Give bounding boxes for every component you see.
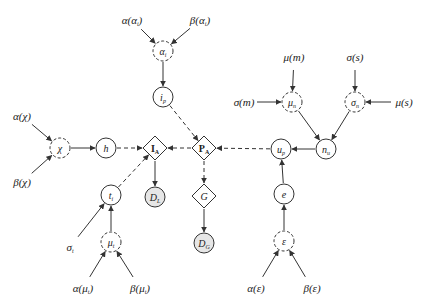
G-label: G	[200, 191, 207, 202]
alpha_chi-label: α(χ)	[13, 110, 31, 123]
node-h: h	[96, 138, 116, 158]
node-u_p: up	[271, 139, 291, 159]
edge-t_i-to-I_A	[119, 155, 149, 187]
epsilon-label: ε	[282, 236, 286, 247]
edge-u_p-to-P_A	[217, 148, 270, 149]
node-alpha_chi: α(χ)	[13, 110, 31, 123]
edge-alpha_eps-to-epsilon	[263, 250, 279, 276]
node-epsilon: ε	[274, 231, 294, 251]
alpha_eps-label: α(ε)	[247, 282, 265, 295]
beta_eps-label: β(ε)	[302, 282, 320, 295]
node-beta_alpha_i: β(αi)	[189, 14, 211, 28]
node-P_A: PA	[192, 136, 216, 160]
h-label: h	[104, 143, 109, 154]
chi-label: χ	[57, 143, 63, 154]
diagram-canvas: α(αi)β(αi)αiipα(χ)β(χ)χhIAPAupnuμ(m)σ(s)…	[0, 0, 422, 306]
node-e: e	[274, 184, 294, 204]
beta_chi-label: β(χ)	[12, 176, 31, 189]
sigma_t-label: σt	[66, 241, 73, 255]
node-alpha_mu_t: α(μt)	[73, 282, 94, 296]
node-alpha_eps: α(ε)	[247, 282, 265, 295]
mu_s-label: μ(s)	[394, 96, 412, 109]
node-n_u: nu	[316, 139, 336, 159]
e-label: e	[282, 189, 287, 200]
node-I_A: IA	[143, 136, 167, 160]
edge-mu_n-to-n_u	[298, 111, 319, 140]
node-D_G: DG	[194, 233, 214, 253]
edge-i_p-to-P_A	[170, 106, 198, 141]
alpha_mu_t-label: α(μt)	[73, 282, 94, 296]
node-mu_n: μn	[282, 92, 302, 112]
edge-beta_mu_t-to-mu_t	[117, 251, 133, 277]
mu_m-label: μ(m)	[283, 51, 305, 64]
edge-mu_m-to-mu_n	[292, 70, 293, 91]
sigma_m-label: σ(m)	[234, 96, 255, 109]
node-chi: χ	[50, 138, 70, 158]
node-G: G	[192, 184, 216, 208]
i_p-circle	[153, 87, 173, 107]
edge-sigma_n-to-n_u	[332, 111, 349, 139]
edge-alpha_chi-to-chi	[32, 124, 52, 141]
beta_mu_t-label: β(μt)	[129, 282, 150, 296]
node-mu_m: μ(m)	[283, 51, 305, 64]
edge-alpha_alpha_i-to-alpha_i	[141, 29, 155, 43]
node-beta_chi: β(χ)	[12, 176, 31, 189]
node-i_p: ip	[153, 87, 173, 107]
node-alpha_alpha_i: α(αi)	[122, 14, 143, 28]
node-sigma_s: σ(s)	[346, 51, 363, 64]
edge-beta_eps-to-epsilon	[290, 250, 306, 276]
node-mu_t: μt	[101, 232, 121, 252]
edge-beta_chi-to-chi	[32, 155, 52, 173]
nodes-layer: α(αi)β(αi)αiipα(χ)β(χ)χhIAPAupnuμ(m)σ(s)…	[12, 14, 413, 296]
beta_alpha_i-label: β(αi)	[189, 14, 211, 28]
edge-alpha_mu_t-to-mu_t	[90, 251, 106, 276]
node-beta_eps: β(ε)	[302, 282, 320, 295]
edge-sigma_t-to-t_i	[78, 204, 104, 237]
node-sigma_n: σn	[345, 92, 365, 112]
node-sigma_m: σ(m)	[234, 96, 255, 109]
node-mu_s: μ(s)	[394, 96, 412, 109]
I_A-diamond	[143, 136, 167, 160]
node-alpha_i: αi	[153, 41, 173, 61]
alpha_alpha_i-label: α(αi)	[122, 14, 143, 28]
sigma_s-label: σ(s)	[346, 51, 363, 64]
node-sigma_t: σt	[66, 241, 73, 255]
node-beta_mu_t: β(μt)	[129, 282, 150, 296]
edge-beta_alpha_i-to-alpha_i	[171, 28, 190, 44]
edge-e-to-u_p	[282, 160, 284, 183]
node-t_i: ti	[101, 185, 121, 205]
graphical-model-diagram: α(αi)β(αi)αiipα(χ)β(χ)χhIAPAupnuμ(m)σ(s)…	[0, 0, 422, 306]
node-D_L: DL	[145, 187, 165, 207]
